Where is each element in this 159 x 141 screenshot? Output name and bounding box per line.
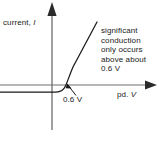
diode-curve	[0, 22, 97, 92]
annotation-line: significant	[101, 26, 159, 36]
annotation-line: conduction	[101, 36, 159, 46]
y-axis-arrowhead	[47, 2, 56, 16]
annotation-line: only occurs	[101, 45, 159, 55]
annotation-line: above about	[101, 55, 159, 65]
y-axis-label-text: current,	[3, 18, 33, 27]
annotation-line: 0.6 V	[101, 64, 159, 74]
x-axis-arrowhead	[145, 81, 157, 90]
diode-iv-characteristic-figure: current, I pd. V 0.6 V significant condu…	[0, 0, 159, 141]
annotation-block: significant conduction only occurs above…	[101, 26, 159, 74]
x-axis-label-symbol: V	[131, 90, 136, 99]
x-axis-label: pd. V	[117, 90, 136, 99]
x-axis-label-text: pd.	[117, 90, 131, 99]
y-axis-label-symbol: I	[33, 18, 35, 27]
threshold-voltage-callout-label: 0.6 V	[63, 95, 82, 104]
y-axis-label: current, I	[3, 18, 36, 27]
